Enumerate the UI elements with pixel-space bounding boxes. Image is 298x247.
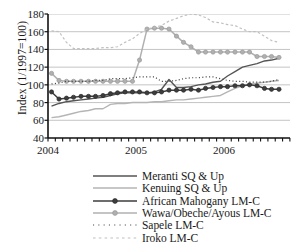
legend-label: African Mahogany LM-C xyxy=(138,195,260,207)
legend-label: Sapele LM-C xyxy=(138,219,204,231)
chart-legend: Meranti SQ & UpKenuing SQ & UpAfrican Ma… xyxy=(92,170,298,244)
legend-item[interactable]: Meranti SQ & Up xyxy=(92,170,298,182)
legend-label: Kenuing SQ & Up xyxy=(138,182,227,194)
legend-label: Iroko LM-C xyxy=(138,232,198,244)
legend-line-sample xyxy=(92,219,138,231)
legend-item[interactable]: African Mahogany LM-C xyxy=(92,195,298,207)
axis-lines xyxy=(40,10,298,146)
legend-line-sample xyxy=(92,170,138,182)
legend-line-sample xyxy=(92,207,138,219)
x-tick-label: 2006 xyxy=(213,144,235,156)
legend-item[interactable]: Iroko LM-C xyxy=(92,231,298,243)
legend-line-sample xyxy=(92,232,138,244)
x-tick-label: 2005 xyxy=(125,144,147,156)
legend-line-sample xyxy=(92,182,138,194)
legend-item[interactable]: Sapele LM-C xyxy=(92,219,298,231)
legend-label: Wawa/Obeche/Ayous LM-C xyxy=(138,207,271,219)
legend-line-sample xyxy=(92,195,138,207)
legend-label: Meranti SQ & Up xyxy=(138,170,224,182)
legend-item[interactable]: Wawa/Obeche/Ayous LM-C xyxy=(92,207,298,219)
x-axis-tick-labels: 200420052006 xyxy=(0,144,298,160)
x-tick-label: 2004 xyxy=(37,144,59,156)
legend-item[interactable]: Kenuing SQ & Up xyxy=(92,182,298,194)
chart-container: Index (1/1997=100) 180160140120100806040… xyxy=(0,0,298,247)
